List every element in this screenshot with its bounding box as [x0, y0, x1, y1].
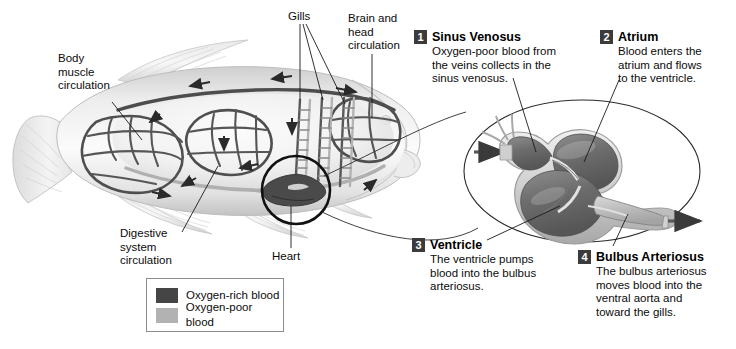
label-brain-head-circulation: Brain and head circulation — [348, 12, 400, 53]
legend-row-oxygen-poor: Oxygen-poor blood — [156, 305, 283, 325]
step-callout-ventricle: 3 Ventricle The ventricle pumps blood in… — [412, 238, 572, 294]
label-heart: Heart — [272, 250, 300, 264]
legend-swatch-oxygen-poor — [156, 308, 178, 323]
legend: Oxygen-rich blood Oxygen-poor blood — [146, 278, 284, 332]
step-callout-sinus-venosus: 1 Sinus Venosus Oxygen-poor blood from t… — [414, 30, 574, 86]
step-callout-atrium: 2 Atrium Blood enters the atrium and flo… — [600, 30, 734, 86]
label-body-muscle-circulation: Body muscle circulation — [58, 52, 110, 93]
step-3-badge: 3 — [412, 238, 425, 252]
step-4-body: The bulbus arteriosus moves blood into t… — [596, 265, 734, 319]
step-3-body: The ventricle pumps blood into the bulbu… — [430, 253, 572, 294]
inflow-arrow — [474, 145, 512, 160]
label-gills: Gills — [288, 10, 310, 24]
step-1-header: 1 Sinus Venosus — [414, 30, 574, 44]
step-1-badge: 1 — [414, 30, 427, 44]
step-2-title: Atrium — [618, 30, 658, 44]
heart-inset — [464, 100, 700, 244]
step-1-body: Oxygen-poor blood from the veins collect… — [432, 45, 574, 86]
step-1-title: Sinus Venosus — [432, 30, 521, 44]
legend-label-oxygen-poor: Oxygen-poor blood — [186, 300, 283, 330]
step-2-body: Blood enters the atrium and flows to the… — [618, 45, 734, 86]
step-2-header: 2 Atrium — [600, 30, 734, 44]
label-digestive-system-circulation: Digestive system circulation — [120, 227, 172, 268]
step-callout-bulbus-arteriosus: 4 Bulbus Arteriosus The bulbus arteriosu… — [578, 250, 734, 319]
outflow-arrow — [662, 216, 700, 228]
step-2-badge: 2 — [600, 30, 613, 44]
step-3-header: 3 Ventricle — [412, 238, 572, 252]
step-4-header: 4 Bulbus Arteriosus — [578, 250, 734, 264]
legend-swatch-oxygen-rich — [156, 288, 178, 303]
step-4-badge: 4 — [578, 250, 591, 264]
step-4-title: Bulbus Arteriosus — [596, 250, 704, 264]
diagram-canvas: Body muscle circulation Gills Brain and … — [0, 0, 736, 349]
step-3-title: Ventricle — [430, 238, 482, 252]
